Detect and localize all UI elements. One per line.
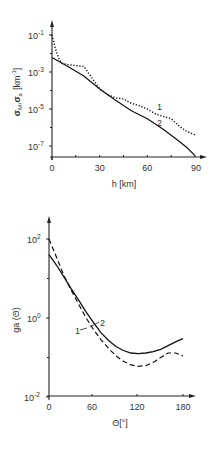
y-tick-label: 100 xyxy=(27,312,41,324)
y-axis-label: ga (Θ) xyxy=(11,307,21,333)
series-1-dotted-curve xyxy=(52,35,195,135)
curve-label-1-leader xyxy=(80,328,87,330)
y-tick-label: 10-1 xyxy=(28,29,44,41)
y-axis-arrow-icon xyxy=(47,216,51,223)
series-2-solid-curve xyxy=(49,255,183,354)
x-tick-label: 0 xyxy=(46,402,51,412)
y-axis-arrow-icon xyxy=(50,20,54,27)
bottom-chart: 102 100 10-2 0 60 120 180 Θ[°] ga (Θ) 1 … xyxy=(11,216,196,428)
x-axis-label: h [km] xyxy=(112,179,137,189)
x-tick-label: 30 xyxy=(95,163,105,173)
y-tick-label: 10-2 xyxy=(24,391,40,403)
y-tick-labels: 102 100 10-2 xyxy=(24,233,41,403)
series-2-solid-curve xyxy=(52,58,195,156)
curve-label-1: 1 xyxy=(157,102,162,112)
y-tick-label: 10-7 xyxy=(28,140,44,152)
x-axis-arrow-icon xyxy=(200,155,207,159)
x-tick-label: 60 xyxy=(142,163,152,173)
curve-label-2: 2 xyxy=(100,318,105,328)
x-axis-label: Θ[°] xyxy=(112,418,128,428)
x-tick-label: 0 xyxy=(49,163,54,173)
y-axis-label: σM,σa[km-1] xyxy=(11,68,23,117)
y-tick-labels: 10-1 10-3 10-5 10-7 xyxy=(28,29,44,152)
x-tick-label: 60 xyxy=(87,402,97,412)
top-chart: 10-1 10-3 10-5 10-7 0 30 60 90 h [km] σM… xyxy=(11,20,207,189)
x-tick-label: 120 xyxy=(129,402,144,412)
curve-label-1: 1 xyxy=(75,326,80,336)
curve-label-2-leader xyxy=(90,322,99,327)
x-tick-label: 90 xyxy=(191,163,201,173)
x-tick-labels: 0 30 60 90 xyxy=(49,163,201,173)
x-axis-arrow-icon xyxy=(189,394,196,398)
y-tick-label: 10-5 xyxy=(28,103,44,115)
figure: 10-1 10-3 10-5 10-7 0 30 60 90 h [km] σM… xyxy=(0,0,216,451)
curve-label-2: 2 xyxy=(157,118,162,128)
x-tick-label: 180 xyxy=(175,402,190,412)
x-tick-labels: 0 60 120 180 xyxy=(46,402,190,412)
y-tick-label: 10-3 xyxy=(28,66,44,78)
y-tick-label: 102 xyxy=(27,233,41,245)
